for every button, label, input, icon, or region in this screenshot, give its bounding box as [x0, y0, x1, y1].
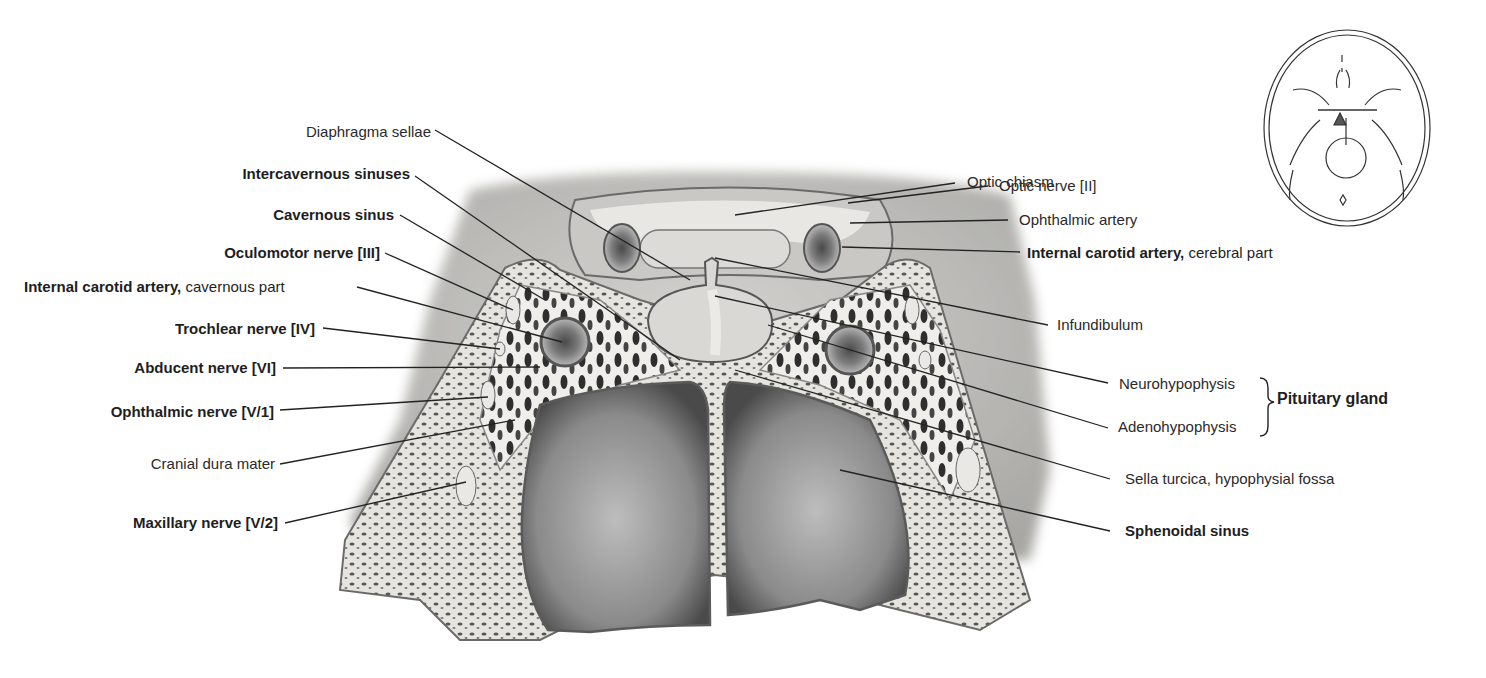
label-text: Optic nerve [II] [999, 177, 1097, 194]
label-cavernous-sinus: Cavernous sinus [273, 206, 394, 224]
label-ica-cerebral: Internal carotid artery, cerebral part [1027, 244, 1273, 262]
label-ica-cavernous: Internal carotid artery, cavernous part [24, 278, 285, 296]
anatomy-figure: Diaphragma sellae Intercavernous sinuses… [0, 0, 1486, 678]
orientation-inset [1264, 30, 1430, 226]
label-text: Abducent nerve [VI] [134, 359, 276, 376]
label-maxillary-nerve: Maxillary nerve [V/2] [133, 514, 278, 532]
label-text: Sphenoidal sinus [1125, 522, 1249, 539]
label-suffix: cerebral part [1184, 244, 1272, 261]
label-text: Intercavernous sinuses [242, 165, 410, 182]
label-text: Maxillary nerve [V/2] [133, 514, 278, 531]
label-abducent-nerve: Abducent nerve [VI] [134, 359, 276, 377]
label-oculomotor-nerve: Oculomotor nerve [III] [224, 244, 380, 262]
label-text: Cranial dura mater [151, 455, 275, 472]
label-intercavernous-sinuses: Intercavernous sinuses [242, 165, 410, 183]
label-text: Internal carotid artery, [1027, 244, 1184, 261]
label-text: Trochlear nerve [IV] [175, 320, 315, 337]
label-pituitary-gland: Pituitary gland [1277, 390, 1388, 408]
optic-chiasm-region [569, 188, 892, 281]
illustration [0, 0, 1486, 678]
label-text: Infundibulum [1057, 316, 1143, 333]
label-text: Adenohypophysis [1118, 418, 1236, 435]
label-adenohypophysis: Adenohypophysis [1118, 418, 1236, 436]
label-sella-turcica: Sella turcica, hypophysial fossa [1125, 470, 1334, 488]
label-infundibulum: Infundibulum [1057, 316, 1143, 334]
label-diaphragma-sellae: Diaphragma sellae [306, 123, 431, 141]
label-cranial-dura-mater: Cranial dura mater [151, 455, 275, 473]
label-text: Neurohypophysis [1119, 375, 1235, 392]
label-text: Oculomotor nerve [III] [224, 244, 380, 261]
label-optic-nerve: Optic nerve [II] [999, 177, 1097, 195]
label-ophthalmic-artery: Ophthalmic artery [1019, 211, 1137, 229]
label-text: Cavernous sinus [273, 206, 394, 223]
label-text: Sella turcica, hypophysial fossa [1125, 470, 1334, 487]
label-suffix: cavernous part [181, 278, 284, 295]
pituitary-brace [1260, 378, 1274, 436]
label-text: Internal carotid artery, [24, 278, 181, 295]
label-text: Ophthalmic nerve [V/1] [111, 403, 274, 420]
label-text: Ophthalmic artery [1019, 211, 1137, 228]
label-trochlear-nerve: Trochlear nerve [IV] [175, 320, 315, 338]
label-neurohypophysis: Neurohypophysis [1119, 375, 1235, 393]
label-sphenoidal-sinus: Sphenoidal sinus [1125, 522, 1249, 540]
label-ophthalmic-nerve: Ophthalmic nerve [V/1] [111, 403, 274, 421]
label-text: Diaphragma sellae [306, 123, 431, 140]
